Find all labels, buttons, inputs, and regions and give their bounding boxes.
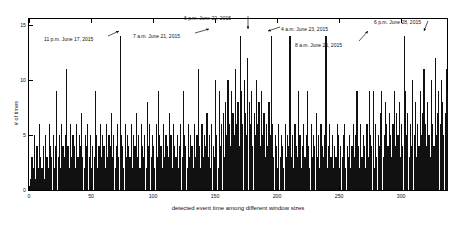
x-tick-mark [91, 186, 92, 190]
bar-series [29, 19, 447, 190]
x-tick-label: 300 [397, 193, 406, 199]
y-tick-mark [29, 25, 33, 26]
y-tick-label: 5 [23, 132, 26, 138]
x-tick-mark-top [91, 19, 92, 23]
y-tick-label: 0 [23, 187, 26, 193]
y-axis-label: # of times [13, 100, 19, 124]
y-tick-mark [29, 135, 33, 136]
y-tick-mark [29, 80, 33, 81]
x-tick-label: 200 [273, 193, 282, 199]
bar [447, 91, 448, 190]
x-tick-label: 50 [88, 193, 94, 199]
x-tick-mark-top [339, 19, 340, 23]
chart-annotation-label: 8 a.m. June 26, 2015 [295, 42, 342, 48]
y-tick-mark [29, 190, 33, 191]
x-tick-mark [153, 186, 154, 190]
x-tick-mark-top [29, 19, 30, 23]
bar [325, 36, 326, 190]
x-tick-mark-top [153, 19, 154, 23]
plot-area: 051015 050100150200250300 [28, 18, 448, 191]
y-tick-label: 15 [20, 22, 26, 28]
chart-figure: # of times 051015 050100150200250300 det… [0, 0, 462, 225]
x-tick-mark [339, 186, 340, 190]
x-tick-label: 100 [149, 193, 158, 199]
x-tick-label: 150 [211, 193, 220, 199]
x-tick-mark [29, 186, 30, 190]
x-tick-mark [215, 186, 216, 190]
chart-annotation-label: 4 a.m. June 23, 2015 [281, 26, 328, 32]
x-tick-mark [277, 186, 278, 190]
chart-annotation-label: 7 a.m. June 21, 2015 [133, 33, 180, 39]
chart-annotation-label: 6 p.m. June 28, 2015 [374, 19, 421, 25]
x-tick-mark [401, 186, 402, 190]
chart-annotation-label: 6 p.m. June 22, 2015 [184, 15, 231, 21]
x-tick-label: 250 [335, 193, 344, 199]
x-tick-label: 0 [28, 193, 31, 199]
x-tick-mark-top [277, 19, 278, 23]
chart-annotation-label: 11 p.m. June 17, 2015 [44, 36, 93, 42]
y-tick-label: 10 [20, 77, 26, 83]
x-axis-label: detected event time among different wind… [28, 205, 448, 211]
